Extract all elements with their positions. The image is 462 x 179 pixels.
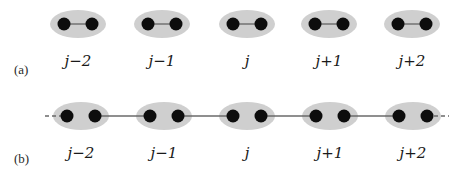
atom-right: [86, 18, 99, 31]
atom-right: [255, 110, 268, 123]
atom-right: [421, 110, 434, 123]
atom-left: [142, 18, 155, 31]
site-label: j−2: [65, 144, 95, 162]
site-label: j+1: [313, 52, 343, 70]
atom-left: [310, 110, 323, 123]
atom-right: [338, 110, 351, 123]
site-label: j−1: [146, 52, 176, 70]
atom-right: [172, 110, 185, 123]
site-label: j: [242, 52, 250, 70]
atom-right: [170, 18, 183, 31]
atom-left: [227, 18, 240, 31]
site-label: j: [242, 144, 250, 162]
atom-left: [392, 18, 405, 31]
site-label: j+2: [397, 144, 427, 162]
panel-a-isolated-dimers: j−2j−1jj+1j+2(a): [14, 10, 440, 77]
dimer-chain-diagram: j−2j−1jj+1j+2(a) j−2j−1jj+1j+2(b): [0, 0, 462, 179]
atom-left: [144, 110, 157, 123]
atom-left: [58, 18, 71, 31]
atom-right: [337, 18, 350, 31]
atom-left: [393, 110, 406, 123]
atom-right: [420, 18, 433, 31]
panel-label: (b): [14, 151, 29, 166]
panel-label: (a): [14, 62, 28, 77]
site-label: j−1: [148, 144, 178, 162]
panel-b-linked-chain: j−2j−1jj+1j+2(b): [14, 102, 449, 166]
atom-left: [61, 110, 74, 123]
site-label: j+1: [314, 144, 344, 162]
site-label: j+2: [396, 52, 426, 70]
site-label: j−2: [62, 52, 92, 70]
atom-right: [89, 110, 102, 123]
atom-left: [309, 18, 322, 31]
atom-left: [227, 110, 240, 123]
atom-right: [255, 18, 268, 31]
